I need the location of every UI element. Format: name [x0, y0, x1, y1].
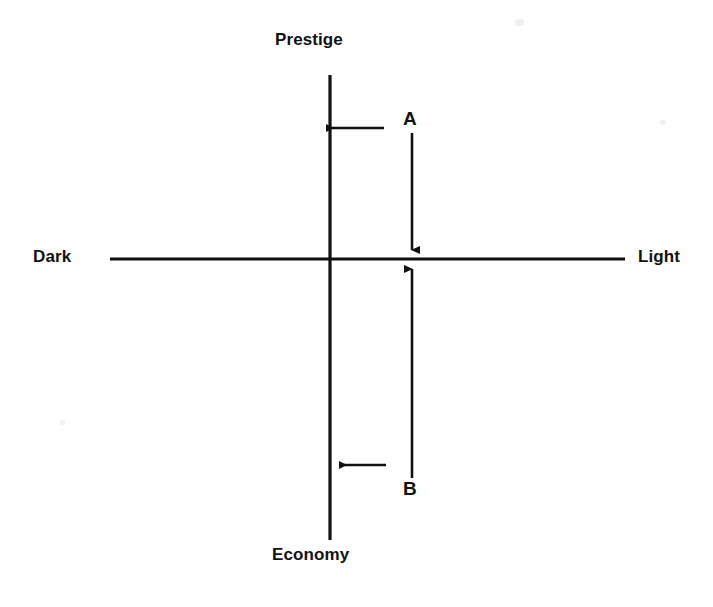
- axis-label-light: Light: [638, 247, 680, 267]
- marker-label-b: B: [403, 478, 417, 500]
- diagram-canvas: Prestige Economy Dark Light A B: [0, 0, 713, 607]
- positioning-map-graphic: [0, 0, 713, 607]
- marker-label-a: A: [403, 108, 417, 130]
- axis-label-prestige: Prestige: [275, 30, 343, 50]
- axis-label-economy: Economy: [272, 545, 349, 565]
- axis-label-dark: Dark: [33, 247, 71, 267]
